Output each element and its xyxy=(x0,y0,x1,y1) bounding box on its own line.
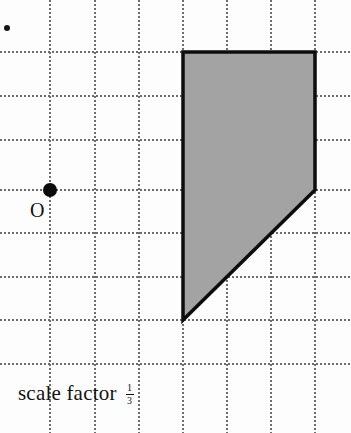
fraction-denominator: 3 xyxy=(126,396,133,406)
scale-factor-fraction: 1 3 xyxy=(126,383,134,406)
caption-text: scale factor xyxy=(18,381,117,406)
center-of-enlargement-dot[interactable] xyxy=(43,183,57,197)
worksheet-canvas: O scale factor 1 3 xyxy=(0,0,351,433)
scan-speck-icon xyxy=(4,25,10,31)
caption: scale factor 1 3 xyxy=(18,381,134,406)
fraction-numerator: 1 xyxy=(126,383,133,393)
center-of-enlargement-label: O xyxy=(30,200,44,220)
annotation-layer: O xyxy=(0,0,351,433)
